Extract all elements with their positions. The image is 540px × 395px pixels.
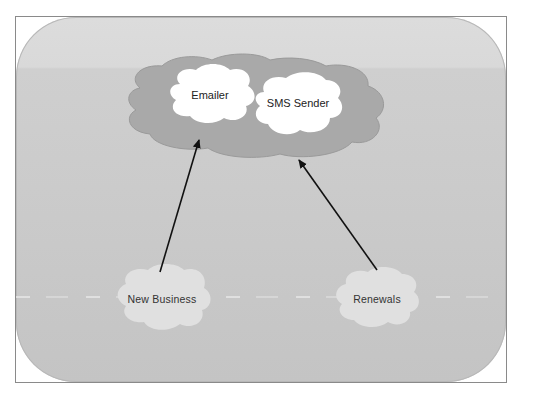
emailer-label: Emailer	[191, 89, 228, 101]
sms-sender-label: SMS Sender	[267, 97, 329, 109]
diagram-canvas	[0, 0, 540, 395]
services-cloud	[129, 54, 384, 157]
arrow-new-business-to-services	[160, 140, 199, 272]
arrow-renewals-to-services	[299, 160, 377, 270]
renewals-label: Renewals	[353, 293, 401, 305]
new-business-label: New Business	[128, 293, 197, 305]
